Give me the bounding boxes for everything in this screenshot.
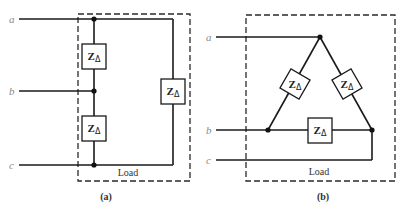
impedance-bc-a: ZΔ — [82, 116, 106, 141]
load-label-a: Load — [118, 167, 139, 178]
terminal-label-b-b: b — [206, 124, 212, 136]
terminal-label-c-b: c — [206, 154, 211, 166]
node-bottom-right-b — [369, 127, 374, 132]
terminal-label-a: a — [9, 13, 15, 25]
impedance-left-b: ZΔ — [280, 69, 310, 99]
terminal-label-a-b: a — [206, 31, 212, 43]
impedance-ab-a: ZΔ — [82, 44, 106, 69]
delta-load-diagrams: ZΔ ZΔ ZΔ a b c Load (a) — [0, 0, 406, 212]
node-c-a — [91, 162, 96, 167]
caption-b: (b) — [317, 191, 329, 203]
diagram-a: ZΔ ZΔ ZΔ a b c Load (a) — [9, 13, 190, 203]
caption-a: (a) — [100, 191, 112, 203]
node-a-a — [91, 16, 96, 21]
diagram-b: ZΔ ZΔ ZΔ a b c Load (b) — [206, 15, 395, 203]
node-bottom-left-b — [265, 127, 270, 132]
load-label-b: Load — [309, 166, 330, 177]
terminal-label-c: c — [9, 159, 14, 171]
impedance-ac-a: ZΔ — [161, 79, 185, 104]
terminal-label-b: b — [9, 85, 15, 97]
node-top-b — [317, 34, 322, 39]
node-b-a — [91, 88, 96, 93]
impedance-right-b: ZΔ — [332, 69, 362, 99]
impedance-bottom-b: ZΔ — [308, 118, 332, 143]
